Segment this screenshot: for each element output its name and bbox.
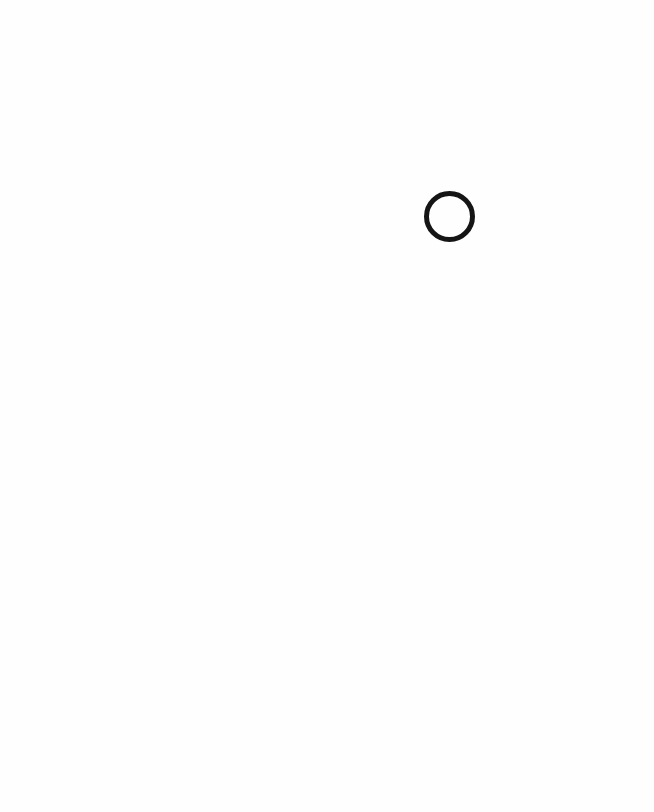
ring-icon: [424, 191, 475, 242]
blank-page: [0, 0, 654, 812]
circle-outline-shape: [424, 191, 475, 242]
